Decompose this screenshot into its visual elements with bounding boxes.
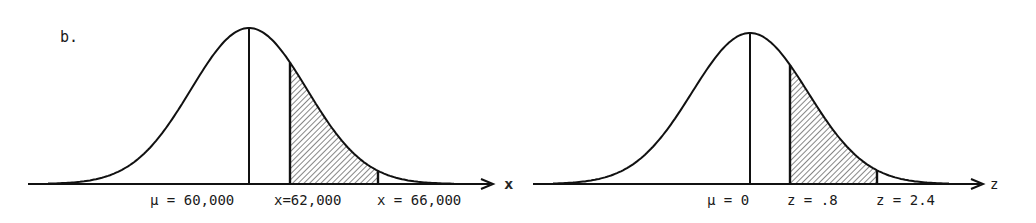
lower-bound-label: x=62,000	[274, 192, 341, 208]
figure: b. x μ = 60,000 x=62,000 x = 66,000 x z …	[0, 0, 1036, 223]
upper-bound-label: z = 2.4	[876, 192, 935, 208]
mean-label: μ = 0	[707, 192, 749, 208]
shaded-region	[290, 63, 378, 185]
upper-bound-label: x = 66,000	[377, 192, 461, 208]
axis-label: z	[990, 176, 998, 192]
z-distribution-plot: x z μ = 0 z = .8 z = 2.4	[505, 33, 998, 208]
x-distribution-plot: x μ = 60,000 x=62,000 x = 66,000	[28, 28, 512, 208]
normal-curve	[48, 28, 454, 184]
part-label: b.	[60, 28, 78, 46]
lower-bound-label: z = .8	[787, 192, 838, 208]
left-axis-label: x	[505, 176, 513, 192]
mean-label: μ = 60,000	[150, 192, 234, 208]
